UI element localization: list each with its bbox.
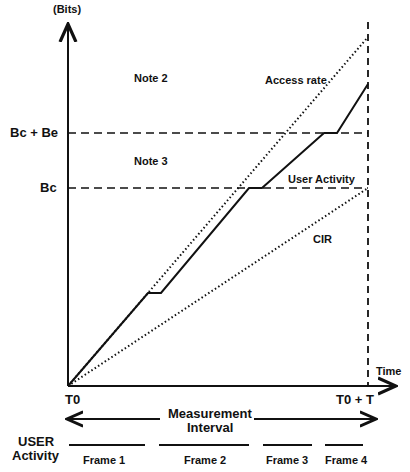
note-3: Note 3 — [134, 155, 168, 167]
bc-label: Bc — [40, 180, 57, 195]
measurement-label: Measurement — [168, 406, 252, 421]
note-2: Note 2 — [134, 72, 168, 84]
t0-label: T0 — [65, 392, 80, 407]
user-label: USER — [18, 434, 54, 449]
x-axis-label: Time — [376, 365, 401, 377]
access-rate-label: Access rate — [265, 74, 327, 86]
interval-label: Interval — [187, 420, 233, 435]
frame-3-label: Frame 3 — [266, 454, 308, 466]
y-axis-label: (Bits) — [53, 3, 81, 15]
user-activity-label: User Activity — [288, 173, 355, 185]
cir-label: CIR — [313, 233, 332, 245]
frame-2-label: Frame 2 — [184, 454, 226, 466]
cir-line — [68, 188, 368, 386]
frame-1-label: Frame 1 — [83, 454, 125, 466]
activity-label: Activity — [12, 448, 59, 463]
t0-plus-t-label: T0 + T — [336, 392, 374, 407]
frame-4-label: Frame 4 — [325, 454, 367, 466]
bc-be-label: Bc + Be — [10, 125, 58, 140]
